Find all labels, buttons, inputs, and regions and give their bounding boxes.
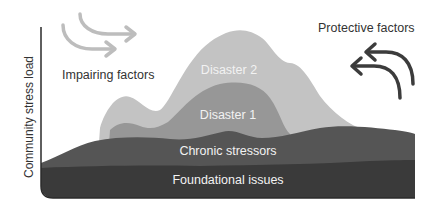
- protective-arrows-icon: [352, 44, 413, 98]
- label-foundational-issues: Foundational issues: [172, 173, 283, 187]
- y-axis-label: Community stress load: [22, 56, 36, 178]
- label-chronic-stressors: Chronic stressors: [179, 144, 276, 158]
- label-disaster-1: Disaster 1: [200, 108, 256, 122]
- impairing-factors-label: Impairing factors: [62, 68, 154, 82]
- label-disaster-2: Disaster 2: [201, 63, 257, 77]
- protective-factors-label: Protective factors: [318, 21, 415, 35]
- stress-load-diagram: Community stress load Impairing factors …: [0, 0, 436, 213]
- impairing-arrows-icon: [63, 14, 135, 56]
